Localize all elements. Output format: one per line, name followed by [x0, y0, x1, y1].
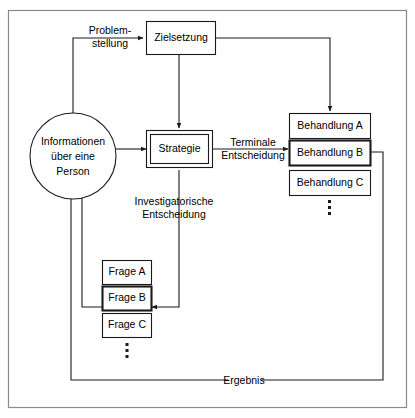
- connector-frage-b-to-info: [82, 186, 102, 307]
- frage-a-box[interactable]: Frage A: [103, 261, 152, 285]
- behandlung-a-box-label: Behandlung A: [297, 119, 362, 131]
- connector-strategie-to-frage-b: [152, 170, 179, 307]
- edge-label-problemstellung-line2: stellung: [92, 37, 128, 49]
- flowchart-svg: Informationen über eine Person Zielsetzu…: [0, 0, 415, 418]
- frage-ellipsis-icon: [126, 343, 129, 358]
- behandlung-b-box[interactable]: Behandlung B: [290, 141, 371, 166]
- edge-label-problemstellung-line1: Problem-: [89, 24, 132, 36]
- frage-b-box[interactable]: Frage B: [103, 287, 152, 311]
- edge-label-terminale-line1: Terminale: [230, 136, 276, 148]
- zielsetzung-box[interactable]: Zielsetzung: [147, 22, 216, 55]
- behandlung-ellipsis-icon: [328, 200, 331, 215]
- frage-b-box-label: Frage B: [108, 291, 145, 303]
- behandlung-b-box-label: Behandlung B: [297, 146, 363, 158]
- frage-c-box-label: Frage C: [108, 318, 146, 330]
- edge-label-investigatorische-line1: Investigatorische: [135, 195, 214, 207]
- informationen-circle-label-line1: Informationen: [41, 135, 105, 147]
- behandlung-c-box-label: Behandlung C: [297, 176, 364, 188]
- connector-info-to-zielsetzung: [73, 38, 143, 126]
- edge-label-investigatorische-line2: Entscheidung: [142, 208, 206, 220]
- connector-zielsetzung-to-behandlung-a: [216, 38, 330, 111]
- behandlung-c-box[interactable]: Behandlung C: [290, 171, 371, 196]
- informationen-circle[interactable]: Informationen über eine Person: [30, 113, 116, 199]
- flowchart-diagram: Informationen über eine Person Zielsetzu…: [0, 0, 415, 418]
- informationen-circle-label-line3: Person: [56, 165, 89, 177]
- strategie-box-label: Strategie: [158, 142, 200, 154]
- strategie-box[interactable]: Strategie: [147, 131, 213, 168]
- behandlung-a-box[interactable]: Behandlung A: [290, 114, 371, 139]
- zielsetzung-box-label: Zielsetzung: [154, 31, 208, 43]
- edge-label-ergebnis: Ergebnis: [223, 374, 264, 386]
- informationen-circle-label-line2: über eine: [51, 150, 95, 162]
- diagram-frame: [9, 11, 407, 408]
- frage-c-box[interactable]: Frage C: [103, 314, 152, 338]
- frage-a-box-label: Frage A: [109, 265, 146, 277]
- edge-label-terminale-line2: Entscheidung: [221, 149, 285, 161]
